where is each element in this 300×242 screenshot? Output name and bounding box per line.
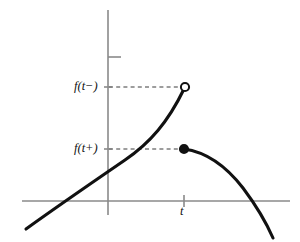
y-axis-label-f-t-minus: f(t−): [74, 80, 98, 93]
figure-container: f(t−) f(t+) t: [0, 0, 300, 242]
curve-branch-left: [26, 89, 184, 229]
x-axis-label-t: t: [180, 205, 183, 218]
open-circle-marker-f-t-minus: [181, 83, 189, 91]
y-axis-label-f-t-plus: f(t+): [74, 142, 98, 155]
filled-circle-marker-f-t-plus: [180, 145, 188, 153]
curve-branch-right: [184, 149, 273, 238]
function-graph: [0, 0, 300, 242]
